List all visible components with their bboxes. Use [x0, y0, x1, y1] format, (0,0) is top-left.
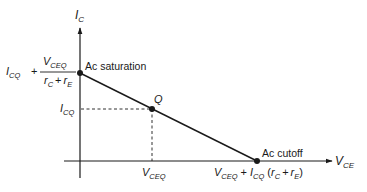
saturation-value: ICQ + VCEQ rC+rE: [6, 55, 76, 89]
q-point-label: Q: [154, 93, 163, 105]
x-axis-label: VCE: [335, 154, 355, 170]
vceq-label: VCEQ: [142, 166, 166, 181]
icq-label: ICQ: [60, 102, 74, 117]
cutoff-label: Ac cutoff: [262, 147, 303, 159]
svg-text:rC+rE: rC+rE: [44, 74, 73, 89]
svg-text:ICQ: ICQ: [6, 65, 20, 80]
saturation-point: [77, 70, 83, 76]
cutoff-point: [254, 158, 260, 164]
y-axis-label: IC: [75, 8, 84, 24]
ac-load-line: [80, 73, 257, 161]
svg-text:+: +: [31, 65, 37, 77]
saturation-label: Ac saturation: [85, 60, 146, 72]
cutoff-value: VCEQ+ICQ(rC+rE): [214, 166, 303, 181]
ac-load-line-diagram: IC VCE ICQ + VCEQ rC+rE Ac saturation Q …: [0, 0, 367, 192]
svg-text:VCEQ: VCEQ: [43, 55, 67, 70]
q-point: [149, 106, 155, 112]
